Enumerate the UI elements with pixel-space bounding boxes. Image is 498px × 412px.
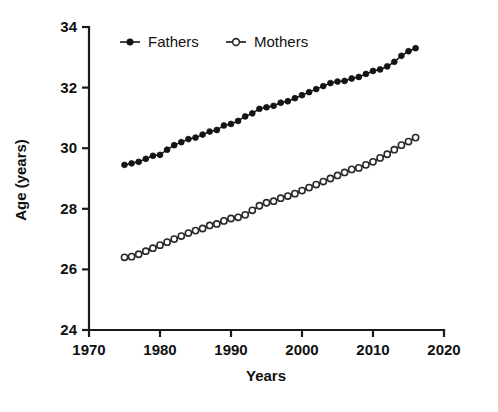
data-point (143, 156, 149, 162)
y-tick-label: 34 (60, 18, 77, 35)
data-point (164, 147, 170, 153)
data-point (342, 78, 348, 84)
data-point (200, 132, 206, 138)
data-point (391, 59, 397, 65)
data-point (185, 230, 191, 236)
data-point (328, 80, 334, 86)
y-tick-label: 28 (60, 200, 77, 217)
data-point (356, 165, 362, 171)
data-point (327, 175, 333, 181)
legend-marker-icon (127, 39, 133, 45)
data-point (214, 221, 220, 227)
y-tick-label: 24 (60, 321, 77, 338)
x-axis-ticks: 197019801990200020102020 (72, 330, 460, 358)
data-point (292, 95, 298, 101)
x-tick-label: 1990 (214, 341, 247, 358)
data-point (249, 110, 255, 116)
data-point (413, 45, 419, 51)
data-point (221, 123, 227, 129)
data-point (200, 225, 206, 231)
data-point (263, 200, 269, 206)
data-point (271, 103, 277, 109)
y-tick-label: 30 (60, 139, 77, 156)
series-layer (121, 45, 418, 260)
chart-container: 242628303234 197019801990200020102020 Ye… (0, 0, 498, 412)
data-point (207, 129, 213, 135)
data-point (349, 76, 355, 82)
data-point (406, 48, 412, 54)
legend-item-mothers: Mothers (226, 33, 308, 50)
data-point (349, 166, 355, 172)
legend-label: Fathers (148, 33, 199, 50)
data-point (313, 181, 319, 187)
data-point (377, 67, 383, 73)
data-point (320, 83, 326, 89)
data-point (313, 86, 319, 92)
data-point (143, 248, 149, 254)
data-point (235, 118, 241, 124)
data-point (157, 152, 163, 158)
data-point (214, 127, 220, 133)
data-point (299, 92, 305, 98)
data-point (186, 136, 192, 142)
data-point (228, 215, 234, 221)
data-point (398, 142, 404, 148)
legend-label: Mothers (254, 33, 308, 50)
data-point (384, 63, 390, 69)
series-mothers (121, 134, 418, 260)
axes-group (89, 27, 444, 330)
x-tick-label: 2000 (285, 341, 318, 358)
data-point (377, 155, 383, 161)
data-point (306, 89, 312, 95)
data-point (178, 139, 184, 145)
data-point (242, 113, 248, 119)
data-point (278, 195, 284, 201)
data-point (399, 53, 405, 59)
data-point (122, 162, 128, 168)
data-point (370, 68, 376, 74)
y-axis-title: Age (years) (12, 139, 29, 221)
data-point (271, 198, 277, 204)
data-point (171, 236, 177, 242)
data-point (285, 98, 291, 104)
data-point (335, 79, 341, 85)
data-point (299, 188, 305, 194)
x-tick-label: 2020 (427, 341, 460, 358)
data-point (221, 218, 227, 224)
y-axis-ticks: 242628303234 (60, 18, 89, 338)
data-point (264, 104, 270, 110)
data-point (178, 233, 184, 239)
data-point (285, 193, 291, 199)
data-point (363, 162, 369, 168)
data-point (136, 159, 142, 165)
data-point (257, 106, 263, 112)
data-point (121, 254, 127, 260)
data-point (164, 239, 170, 245)
data-point (292, 191, 298, 197)
data-point (384, 151, 390, 157)
data-point (391, 147, 397, 153)
data-point (334, 172, 340, 178)
line-chart: 242628303234 197019801990200020102020 Ye… (0, 0, 498, 412)
data-point (129, 254, 135, 260)
y-tick-label: 32 (60, 79, 77, 96)
data-point (228, 121, 234, 127)
data-point (413, 134, 419, 140)
data-point (136, 251, 142, 257)
x-tick-label: 1970 (72, 341, 105, 358)
x-tick-label: 1980 (143, 341, 176, 358)
data-point (370, 159, 376, 165)
data-point (342, 169, 348, 175)
data-point (171, 142, 177, 148)
data-point (242, 212, 248, 218)
data-point (150, 153, 156, 159)
data-point (129, 160, 135, 166)
data-point (150, 245, 156, 251)
data-point (157, 242, 163, 248)
y-tick-label: 26 (60, 260, 77, 277)
data-point (193, 135, 199, 141)
series-fathers (122, 45, 419, 167)
data-point (235, 214, 241, 220)
data-point (363, 71, 369, 77)
legend-item-fathers: Fathers (120, 33, 199, 50)
